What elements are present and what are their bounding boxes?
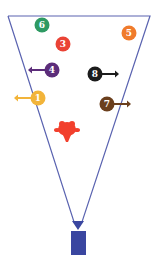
object-1: 1 (14, 91, 46, 106)
camera-icon (71, 221, 86, 255)
object-label: 6 (39, 20, 45, 30)
object-label: 1 (35, 93, 41, 103)
object-3: 3 (56, 37, 71, 52)
object-label: 7 (104, 99, 110, 109)
object-7: 7 (100, 97, 132, 112)
arrowhead-icon (115, 71, 119, 78)
object-8: 8 (88, 67, 120, 82)
object-label: 5 (126, 28, 132, 38)
red-figure-icon (54, 121, 80, 142)
object-4: 4 (28, 63, 60, 78)
arrowhead-icon (14, 95, 18, 102)
object-label: 8 (92, 69, 98, 79)
objects-layer: 6354817 (14, 18, 137, 112)
field-of-view-outline (8, 16, 150, 222)
arrowhead-icon (28, 67, 32, 74)
object-label: 4 (49, 65, 55, 75)
fov-diagram: 6354817 (0, 0, 156, 270)
object-5: 5 (122, 26, 137, 41)
object-6: 6 (35, 18, 50, 33)
object-label: 3 (60, 39, 66, 49)
arrowhead-icon (127, 101, 131, 108)
